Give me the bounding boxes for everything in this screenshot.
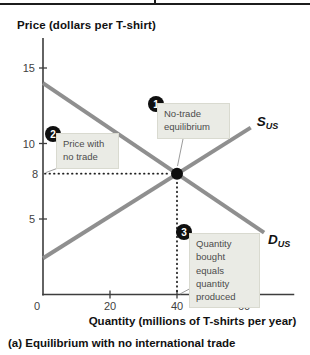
x-axis-title: Quantity (millions of T-shirts per year) (85, 315, 300, 327)
supply-demand-chart: 5101582040600SUSDUS (0, 0, 310, 355)
panel-caption: (a) Equilibrium with no international tr… (8, 337, 235, 349)
equilibrium-point (171, 168, 183, 180)
supply-curve-label: SUS (257, 114, 279, 131)
y-tick-label-15: 15 (23, 62, 35, 74)
x-origin-label: 0 (34, 300, 40, 312)
annotation-quantity-bought-equals-produced: Quantity bought equals quantity produced (189, 233, 260, 308)
demand-curve-label: DUS (268, 232, 290, 249)
x-tick-label-40: 40 (171, 300, 183, 312)
annotation-no-trade-equilibrium: No-trade equilibrium (157, 103, 230, 139)
figure-panel: Price (dollars per T-shirt) 510158204060… (0, 0, 310, 355)
y-tick-label-10: 10 (23, 138, 35, 150)
x-tick-label-20: 20 (104, 300, 116, 312)
annotation-price-with-no-trade: Price with no trade (56, 133, 119, 169)
y-tick-label-5: 5 (29, 213, 35, 225)
leader-line-1 (178, 139, 184, 166)
y-label-8: 8 (32, 168, 38, 180)
